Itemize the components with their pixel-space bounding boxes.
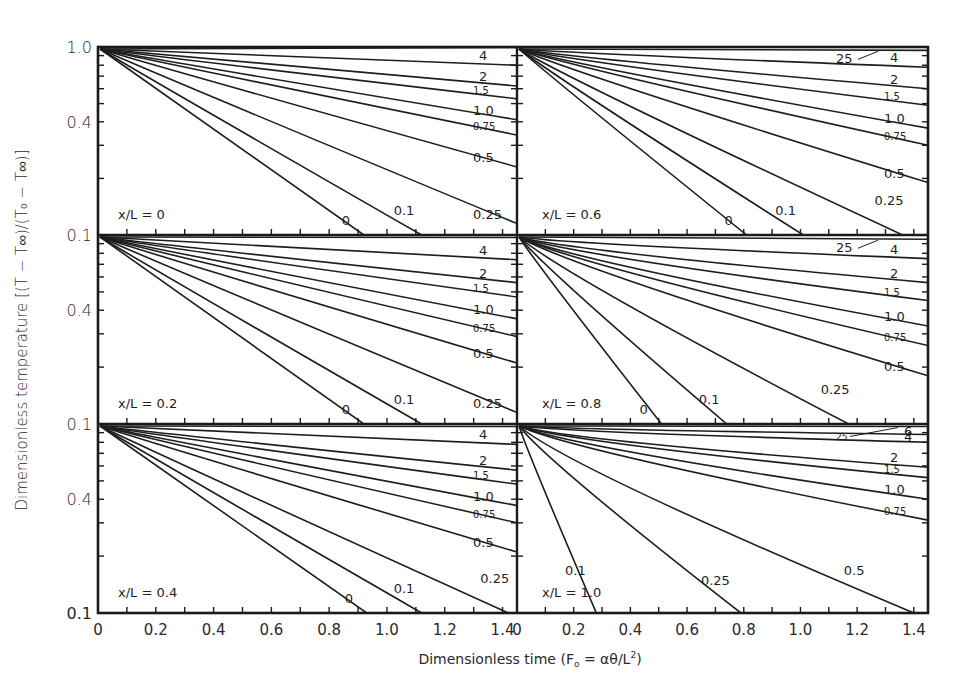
curve-label: 0.75 xyxy=(884,506,906,517)
curve-label: 0.1 xyxy=(394,392,415,407)
curve-label: 0 xyxy=(725,213,733,228)
x-axis-title-mid: = αθ/L xyxy=(579,651,630,667)
curve-label: 0.1 xyxy=(699,392,720,407)
curve-label: 0.75 xyxy=(884,332,906,343)
curve-label: 1.5 xyxy=(473,470,489,481)
curve-label: 4 xyxy=(904,429,912,444)
curve-label: 0.5 xyxy=(884,359,905,374)
x-tick-label: 1.0 xyxy=(789,621,813,639)
curve-label: 2 xyxy=(890,266,898,281)
y-tick-label: 0.1 xyxy=(67,604,92,623)
curve-label: 0.25 xyxy=(480,571,509,586)
x-tick-label: 0 xyxy=(512,621,522,639)
x-tick-label: 0.2 xyxy=(562,621,586,639)
x-tick-label: 1.0 xyxy=(375,621,399,639)
curve-label: 25 xyxy=(836,51,853,66)
curve-bi-2 xyxy=(519,237,928,283)
curve-bi-0.25 xyxy=(100,49,517,224)
y-tick-label: 0.4 xyxy=(67,490,92,509)
curve-label: 0.1 xyxy=(394,581,415,596)
curve-bi-1.5 xyxy=(519,237,928,301)
curve-label: 0.1 xyxy=(565,563,586,578)
curve-label: 1.5 xyxy=(884,91,900,102)
panel-label: x/L = 0.4 xyxy=(118,585,177,600)
curve-label: 4 xyxy=(479,48,487,63)
curve-bi-4 xyxy=(519,49,928,67)
curve-label: 0.5 xyxy=(473,535,494,550)
x-axis-tick-labels: 00.20.40.60.81.01.21.400.20.40.60.81.01.… xyxy=(93,621,926,639)
curve-label: 2 xyxy=(479,453,487,468)
curve-label: 0.25 xyxy=(473,207,502,222)
leader-arrow xyxy=(850,428,898,437)
y-axis-title: Dimensionless temperature [(T − T∞)/(T₀ … xyxy=(13,149,31,510)
curve-label: 0 xyxy=(342,213,350,228)
curve-label: 25 xyxy=(836,432,847,442)
x-tick-label: 0.4 xyxy=(202,621,226,639)
curve-label: 0.75 xyxy=(473,121,495,132)
panel-label: x/L = 1.0 xyxy=(542,585,601,600)
curve-label: 0 xyxy=(342,402,350,417)
leader-arrow xyxy=(858,240,878,248)
x-tick-label: 0.8 xyxy=(317,621,341,639)
curve-bi-0.5 xyxy=(519,49,928,183)
curve-label: 0.5 xyxy=(844,563,865,578)
x-tick-label: 0.2 xyxy=(144,621,168,639)
curve-label: 0.75 xyxy=(884,131,906,142)
curve-label: 1.5 xyxy=(473,85,489,96)
curve-label: 0.25 xyxy=(473,396,502,411)
x-axis-title: Dimensionless time (Fo = αθ/L2) xyxy=(418,650,641,669)
y-axis-tick-labels: 1.00.40.10.40.10.40.1 xyxy=(67,38,92,623)
curve-label: 1.0 xyxy=(473,103,494,118)
curve-label: 1.0 xyxy=(884,309,905,324)
x-tick-label: 0.4 xyxy=(618,621,642,639)
curve-label: 0.5 xyxy=(884,166,905,181)
panel-xL-0.8: 25421.51.00.750.50.250.10x/L = 0.8 xyxy=(517,237,928,424)
curve-label: 0.1 xyxy=(775,203,796,218)
curve-bi-25 xyxy=(100,426,517,427)
curve-bi-0.5 xyxy=(100,49,517,167)
chart-frame xyxy=(98,47,928,613)
x-tick-label: 0 xyxy=(93,621,103,639)
panel-label: x/L = 0.2 xyxy=(118,396,177,411)
x-tick-label: 1.2 xyxy=(845,621,869,639)
curve-label: 0.5 xyxy=(473,346,494,361)
curve-label: 4 xyxy=(890,50,898,65)
curve-bi-1.5 xyxy=(519,49,928,105)
curve-bi-0.75 xyxy=(100,237,517,337)
outer-frame xyxy=(98,47,928,613)
x-tick-label: 1.4 xyxy=(491,621,515,639)
curve-label: 4 xyxy=(890,242,898,257)
curve-bi-25 xyxy=(100,237,517,238)
x-tick-label: 0.6 xyxy=(675,621,699,639)
y-tick-label: 0.1 xyxy=(67,415,92,434)
curve-label: 25 xyxy=(836,240,853,255)
curve-label: 1.0 xyxy=(473,489,494,504)
curve-bi-2 xyxy=(519,426,928,467)
curve-bi-0.75 xyxy=(100,426,517,523)
y-tick-label: 1.0 xyxy=(67,38,92,57)
curve-label: 0.25 xyxy=(701,573,730,588)
panel-xL-0.2: 421.51.00.750.50.250.10x/L = 0.2 xyxy=(98,237,517,424)
x-tick-label: 0.8 xyxy=(732,621,756,639)
curve-bi-25 xyxy=(519,237,928,239)
panel-label: x/L = 0.8 xyxy=(542,396,601,411)
curve-label: 4 xyxy=(479,427,487,442)
panel-label: x/L = 0 xyxy=(118,207,165,222)
x-tick-label: 0.6 xyxy=(259,621,283,639)
curve-label: 1.5 xyxy=(884,287,900,298)
curve-label: 1.0 xyxy=(884,111,905,126)
panel-label: x/L = 0.6 xyxy=(542,207,601,222)
panel-xL-1.0: 256421.51.00.750.50.250.1x/L = 1.0 xyxy=(517,424,928,613)
curve-bi-0.75 xyxy=(519,237,928,346)
x-tick-label: 1.4 xyxy=(902,621,926,639)
curve-label: 1.5 xyxy=(884,464,900,475)
y-tick-label: 0.1 xyxy=(67,226,92,245)
curve-bi-25 xyxy=(519,49,928,50)
panel-xL-0.6: 25421.51.00.750.50.250.10x/L = 0.6 xyxy=(517,49,928,235)
chart-panels: 421.51.00.750.50.250.10x/L = 025421.51.0… xyxy=(98,47,928,613)
curve-label: 2 xyxy=(479,266,487,281)
curve-label: 0 xyxy=(640,402,648,417)
curve-label: 2 xyxy=(890,72,898,87)
x-axis-title-prefix: Dimensionless time (F xyxy=(418,651,574,667)
curve-label: 0.25 xyxy=(874,193,903,208)
